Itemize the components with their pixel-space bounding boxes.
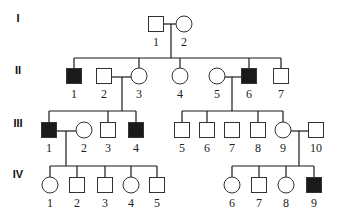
individual-ii-7: 7 bbox=[274, 69, 289, 102]
individual-number: 7 bbox=[229, 141, 235, 155]
individual-number: 1 bbox=[46, 141, 52, 155]
individual-number: 7 bbox=[256, 196, 262, 210]
individual-number: 9 bbox=[280, 141, 286, 155]
individual-iii-1: 1 bbox=[42, 123, 57, 156]
individual-number: 2 bbox=[101, 87, 107, 101]
female-symbol bbox=[209, 68, 225, 84]
individual-number: 3 bbox=[105, 141, 111, 155]
individual-number: 6 bbox=[229, 196, 235, 210]
individual-iv-2: 2 bbox=[70, 178, 85, 211]
male-symbol bbox=[101, 123, 116, 138]
individual-number: 8 bbox=[283, 196, 289, 210]
individual-i-1: 1 bbox=[149, 17, 164, 50]
individual-ii-4: 4 bbox=[172, 68, 188, 101]
individual-number: 3 bbox=[102, 196, 108, 210]
individual-iv-5: 5 bbox=[150, 178, 165, 211]
individual-number: 5 bbox=[179, 141, 185, 155]
male-symbol bbox=[200, 123, 215, 138]
individual-number: 6 bbox=[246, 87, 252, 101]
individual-iii-10: 10 bbox=[309, 123, 324, 156]
female-symbol bbox=[42, 177, 58, 193]
affected-male-symbol bbox=[42, 123, 57, 138]
individual-number: 10 bbox=[310, 141, 322, 155]
individual-number: 8 bbox=[255, 141, 261, 155]
generation-label: I bbox=[16, 12, 19, 24]
male-symbol bbox=[252, 178, 267, 193]
individual-iii-3: 3 bbox=[101, 123, 116, 156]
individual-number: 2 bbox=[74, 196, 80, 210]
female-symbol bbox=[76, 122, 92, 138]
affected-male-symbol bbox=[242, 69, 257, 84]
male-symbol bbox=[150, 178, 165, 193]
individual-number: 5 bbox=[214, 87, 220, 101]
individual-iv-7: 7 bbox=[252, 178, 267, 211]
individual-ii-6: 6 bbox=[242, 69, 257, 102]
individual-number: 6 bbox=[204, 141, 210, 155]
individual-number: 5 bbox=[154, 196, 160, 210]
female-symbol bbox=[224, 177, 240, 193]
individual-iv-1: 1 bbox=[42, 177, 58, 210]
male-symbol bbox=[175, 123, 190, 138]
individual-ii-3: 3 bbox=[131, 68, 147, 101]
individual-iii-6: 6 bbox=[200, 123, 215, 156]
individual-number: 1 bbox=[71, 87, 77, 101]
individual-i-2: 2 bbox=[176, 16, 192, 49]
generation-labels: IIIIIIIV bbox=[13, 12, 24, 180]
female-symbol bbox=[278, 177, 294, 193]
pedigree-chart: IIIIIIIV 12123456712345678910123456789 bbox=[0, 0, 342, 218]
male-symbol bbox=[149, 17, 164, 32]
female-symbol bbox=[131, 68, 147, 84]
male-symbol bbox=[70, 178, 85, 193]
male-symbol bbox=[225, 123, 240, 138]
male-symbol bbox=[97, 69, 112, 84]
individual-number: 4 bbox=[177, 87, 183, 101]
individual-number: 1 bbox=[153, 35, 159, 49]
individual-number: 1 bbox=[47, 196, 53, 210]
female-symbol bbox=[123, 177, 139, 193]
individual-iv-8: 8 bbox=[278, 177, 294, 210]
individual-iv-3: 3 bbox=[98, 178, 113, 211]
generation-label: II bbox=[15, 64, 21, 76]
affected-male-symbol bbox=[67, 69, 82, 84]
female-symbol bbox=[176, 16, 192, 32]
individual-number: 7 bbox=[278, 87, 284, 101]
individual-number: 2 bbox=[181, 35, 187, 49]
individual-iii-5: 5 bbox=[175, 123, 190, 156]
individual-iii-9: 9 bbox=[275, 122, 291, 155]
individual-iv-4: 4 bbox=[123, 177, 139, 210]
individual-number: 2 bbox=[81, 141, 87, 155]
female-symbol bbox=[275, 122, 291, 138]
individual-number: 3 bbox=[136, 87, 142, 101]
individual-iii-2: 2 bbox=[76, 122, 92, 155]
individual-iv-6: 6 bbox=[224, 177, 240, 210]
female-symbol bbox=[172, 68, 188, 84]
generation-label: IV bbox=[13, 168, 24, 180]
individual-iii-4: 4 bbox=[129, 123, 144, 156]
individual-number: 9 bbox=[311, 196, 317, 210]
affected-male-symbol bbox=[129, 123, 144, 138]
generation-label: III bbox=[13, 117, 22, 129]
individual-ii-5: 5 bbox=[209, 68, 225, 101]
individual-iii-8: 8 bbox=[251, 123, 266, 156]
individual-iv-9: 9 bbox=[307, 178, 322, 211]
male-symbol bbox=[274, 69, 289, 84]
male-symbol bbox=[309, 123, 324, 138]
individual-iii-7: 7 bbox=[225, 123, 240, 156]
individual-number: 4 bbox=[128, 196, 134, 210]
affected-male-symbol bbox=[307, 178, 322, 193]
individual-ii-2: 2 bbox=[97, 69, 112, 102]
individual-ii-1: 1 bbox=[67, 69, 82, 102]
individual-number: 4 bbox=[133, 141, 139, 155]
male-symbol bbox=[251, 123, 266, 138]
male-symbol bbox=[98, 178, 113, 193]
